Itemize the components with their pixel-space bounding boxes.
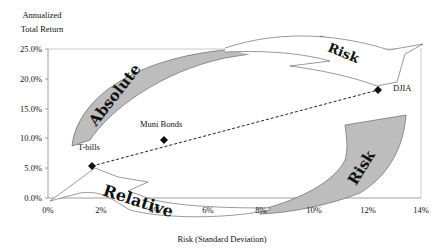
x-tick-14: 14% [406, 205, 436, 215]
y-tick-0: 0.0% [0, 193, 42, 203]
x-tick-2: 2% [86, 205, 116, 215]
risk-return-chart: Annualized Total Return [0, 0, 444, 250]
dashed-trend-line [92, 90, 378, 166]
y-tick-25: 25.0% [0, 44, 42, 54]
y-tick-15: 15.0% [0, 104, 42, 114]
x-tick-8: 8% [246, 205, 276, 215]
x-axis-label: Risk (Standard Deviation) [0, 234, 444, 244]
muni-bonds-marker [160, 136, 168, 144]
relative-arrow-label: Relative [101, 181, 176, 222]
y-tick-marks [45, 49, 48, 198]
djia-label: DJIA [393, 83, 411, 93]
x-tick-4: 4% [140, 205, 170, 215]
x-tick-10: 10% [299, 205, 329, 215]
t-bills-label: T-bills [78, 142, 100, 152]
djia-marker [374, 86, 382, 94]
x-tick-6: 6% [193, 205, 223, 215]
y-tick-5: 5.0% [0, 163, 42, 173]
bottom-risk-arrow-shape [260, 115, 406, 214]
y-tick-20: 20.0% [0, 74, 42, 84]
x-tick-0: 0% [33, 205, 63, 215]
muni-bonds-label: Muni Bonds [140, 119, 182, 129]
x-tick-12: 12% [353, 205, 383, 215]
y-tick-10: 10.0% [0, 133, 42, 143]
